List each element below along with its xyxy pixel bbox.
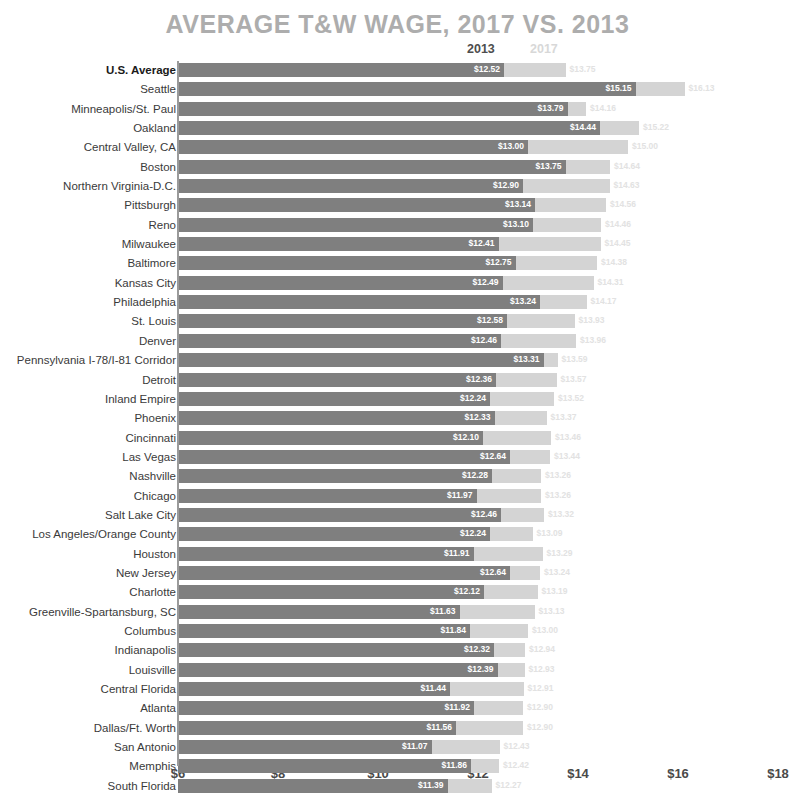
bar-value-2017: $13.32 bbox=[548, 509, 574, 520]
bar-row-label: Cincinnati bbox=[126, 429, 177, 448]
bar-group: $13.00$15.00 bbox=[178, 138, 778, 157]
bar-value-2017: $12.91 bbox=[528, 683, 554, 694]
bar-row: Louisville$12.39$12.93 bbox=[0, 661, 795, 680]
bar-value-2013: $15.15 bbox=[602, 83, 632, 94]
bar-value-2013: $11.07 bbox=[398, 741, 428, 752]
bar-value-2017: $14.17 bbox=[591, 296, 617, 307]
bar-value-2013: $11.44 bbox=[416, 683, 446, 694]
bar-value-2017: $13.00 bbox=[532, 625, 558, 636]
bar-value-2013: $12.36 bbox=[462, 374, 492, 385]
bar-group: $11.56$12.90 bbox=[178, 719, 778, 738]
bar-value-2013: $12.41 bbox=[465, 238, 495, 249]
bar-value-2017: $13.26 bbox=[545, 490, 571, 501]
bar-group: $11.97$13.26 bbox=[178, 487, 778, 506]
bar-row-label: Boston bbox=[140, 158, 176, 177]
bar-group: $11.07$12.43 bbox=[178, 738, 778, 757]
bar-row-label: Philadelphia bbox=[113, 293, 176, 312]
bar-row-label: Detroit bbox=[142, 371, 176, 390]
bar-value-2017: $13.37 bbox=[551, 412, 577, 423]
bar-value-2013: $13.79 bbox=[534, 103, 564, 114]
bar-2013 bbox=[178, 198, 535, 212]
bar-value-2013: $11.84 bbox=[436, 625, 466, 636]
bar-row-label: Kansas City bbox=[115, 274, 176, 293]
bar-group: $12.75$14.38 bbox=[178, 254, 778, 273]
bar-value-2013: $12.49 bbox=[469, 277, 499, 288]
bar-value-2013: $12.46 bbox=[467, 335, 497, 346]
bar-row-label: Oakland bbox=[133, 119, 176, 138]
bar-group: $12.52$13.75 bbox=[178, 61, 778, 80]
bar-row-label: Dallas/Ft. Worth bbox=[94, 719, 176, 738]
bar-value-2017: $14.38 bbox=[601, 257, 627, 268]
bar-group: $13.79$14.16 bbox=[178, 100, 778, 119]
bar-row-label: Denver bbox=[139, 332, 176, 351]
bar-row: Minneapolis/St. Paul$13.79$14.16 bbox=[0, 100, 795, 119]
bar-value-2013: $12.24 bbox=[456, 393, 486, 404]
bar-value-2013: $11.39 bbox=[414, 780, 444, 791]
bar-row-label: Houston bbox=[133, 545, 176, 564]
bar-value-2013: $13.10 bbox=[499, 219, 529, 230]
bar-row: Philadelphia$13.24$14.17 bbox=[0, 293, 795, 312]
bar-row-label: Los Angeles/Orange County bbox=[32, 525, 176, 544]
bar-value-2013: $12.32 bbox=[460, 644, 490, 655]
bar-value-2017: $12.90 bbox=[527, 702, 553, 713]
bar-row: Kansas City$12.49$14.31 bbox=[0, 274, 795, 293]
bar-2013 bbox=[178, 643, 494, 657]
bar-row-label: Seattle bbox=[140, 80, 176, 99]
bar-group: $12.58$13.93 bbox=[178, 312, 778, 331]
bar-value-2017: $12.93 bbox=[529, 664, 555, 675]
bar-row: St. Louis$12.58$13.93 bbox=[0, 312, 795, 331]
bar-row-label: Nashville bbox=[129, 467, 176, 486]
bar-row-label: Baltimore bbox=[127, 254, 176, 273]
bar-group: $12.24$13.09 bbox=[178, 525, 778, 544]
bar-row-label: Phoenix bbox=[134, 409, 176, 428]
bar-row-label: Louisville bbox=[129, 661, 176, 680]
bar-row: Salt Lake City$12.46$13.32 bbox=[0, 506, 795, 525]
bar-row: San Antonio$11.07$12.43 bbox=[0, 738, 795, 757]
bar-value-2013: $12.90 bbox=[489, 180, 519, 191]
bar-2013 bbox=[178, 160, 566, 174]
bar-row: Oakland$14.44$15.22 bbox=[0, 119, 795, 138]
bar-group: $13.24$14.17 bbox=[178, 293, 778, 312]
bar-group: $12.90$14.63 bbox=[178, 177, 778, 196]
bar-value-2017: $14.56 bbox=[610, 199, 636, 210]
bar-2013 bbox=[178, 721, 456, 735]
bar-row: Central Valley, CA$13.00$15.00 bbox=[0, 138, 795, 157]
bar-group: $12.46$13.96 bbox=[178, 332, 778, 351]
bar-row: Los Angeles/Orange County$12.24$13.09 bbox=[0, 525, 795, 544]
bar-2013 bbox=[178, 547, 474, 561]
bar-group: $12.46$13.32 bbox=[178, 506, 778, 525]
bar-value-2017: $15.22 bbox=[643, 122, 669, 133]
bar-group: $12.41$14.45 bbox=[178, 235, 778, 254]
bar-row-label: Northern Virginia-D.C. bbox=[63, 177, 176, 196]
bar-row-label: Atlanta bbox=[140, 699, 176, 718]
bar-row-label: Greenville-Spartansburg, SC bbox=[29, 603, 176, 622]
bar-group: $14.44$15.22 bbox=[178, 119, 778, 138]
bar-value-2017: $13.29 bbox=[547, 548, 573, 559]
bar-value-2013: $11.63 bbox=[426, 606, 456, 617]
bar-value-2017: $13.96 bbox=[580, 335, 606, 346]
bar-value-2013: $14.44 bbox=[566, 122, 596, 133]
bar-value-2013: $12.46 bbox=[467, 509, 497, 520]
y-axis-line bbox=[177, 61, 179, 766]
bar-value-2017: $14.16 bbox=[590, 103, 616, 114]
bar-value-2013: $11.97 bbox=[443, 490, 473, 501]
bar-value-2013: $12.52 bbox=[470, 64, 500, 75]
bar-2013 bbox=[178, 334, 501, 348]
bar-2013 bbox=[178, 663, 498, 677]
bar-2013 bbox=[178, 759, 471, 773]
bar-2013 bbox=[178, 140, 528, 154]
bar-row: Milwaukee$12.41$14.45 bbox=[0, 235, 795, 254]
bar-2013 bbox=[178, 527, 490, 541]
bar-group: $13.10$14.46 bbox=[178, 216, 778, 235]
bar-row: Pittsburgh$13.14$14.56 bbox=[0, 196, 795, 215]
bar-value-2017: $15.00 bbox=[632, 141, 658, 152]
bar-value-2017: $13.57 bbox=[561, 374, 587, 385]
bar-value-2017: $13.24 bbox=[544, 567, 570, 578]
bar-group: $13.14$14.56 bbox=[178, 196, 778, 215]
bar-row: Houston$11.91$13.29 bbox=[0, 545, 795, 564]
bar-group: $11.44$12.91 bbox=[178, 680, 778, 699]
bar-value-2013: $12.33 bbox=[461, 412, 491, 423]
bar-row: Columbus$11.84$13.00 bbox=[0, 622, 795, 641]
bar-2013 bbox=[178, 431, 483, 445]
bar-value-2013: $12.64 bbox=[476, 451, 506, 462]
